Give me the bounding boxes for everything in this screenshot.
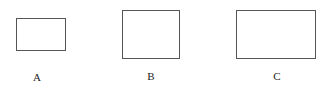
label-b: B xyxy=(147,71,154,82)
rectangle-a xyxy=(16,18,66,51)
rectangle-c xyxy=(236,10,316,59)
label-c: C xyxy=(273,71,280,82)
label-a: A xyxy=(33,72,41,83)
rectangle-b xyxy=(122,10,180,59)
